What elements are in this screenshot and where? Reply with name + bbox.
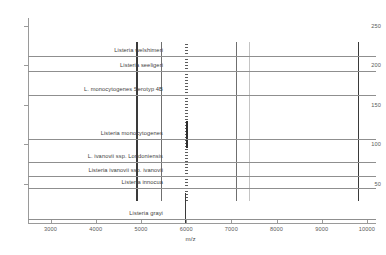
species-baseline (28, 139, 376, 140)
species-label: Listeria monocytogenes (10, 130, 163, 137)
species-label: Listeria seeligeri (10, 62, 163, 69)
peak-cluster-core (186, 121, 188, 149)
peak-line (358, 42, 359, 201)
species-baseline (28, 56, 376, 57)
species-label: Listeria ivanovii ssp. ivanovii (10, 167, 163, 174)
species-baseline (28, 162, 376, 163)
x-tick-label: 4000 (76, 226, 116, 232)
x-tick-label: 10000 (347, 226, 386, 232)
species-baseline (28, 188, 376, 189)
x-tick-label: 5000 (121, 226, 161, 232)
species-label: L. monocytogenes Serotyp 4B (10, 86, 163, 93)
peak-line (236, 42, 237, 201)
x-tick-label: 3000 (31, 226, 71, 232)
species-label: Listeria grayi (10, 210, 163, 217)
x-tick-label: 9000 (302, 226, 342, 232)
peak-line (249, 42, 250, 201)
x-axis-line (28, 223, 376, 224)
x-axis-title: m/z (0, 235, 381, 242)
x-tick-label: 7000 (211, 226, 251, 232)
species-baseline (28, 95, 376, 96)
x-tick-label: 6000 (166, 226, 206, 232)
species-baseline (28, 219, 376, 220)
species-baseline (28, 176, 376, 177)
x-tick-label: 8000 (257, 226, 297, 232)
species-label: Listeria innocua (10, 179, 163, 186)
species-label: Listeria welshimeri (10, 47, 163, 54)
species-baseline (28, 71, 376, 72)
species-label: L. ivanovii ssp. Londoniensis (10, 153, 163, 160)
